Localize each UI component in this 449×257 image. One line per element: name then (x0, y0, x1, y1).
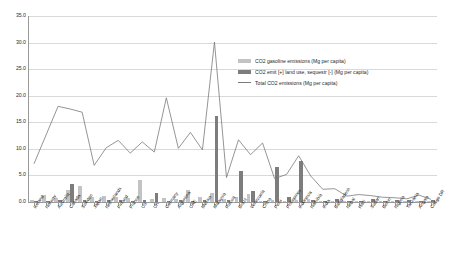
legend-item-total: Total CO2 emissions (Mg per capita) (238, 77, 438, 88)
y-axis-tick-label: 0.0 (2, 199, 26, 204)
legend-item-gasoline: CO2 gasoline emissions (Mg per capita) (238, 55, 438, 66)
legend-label-landuse: CO2 emit [+] land use, sequestr [-] (Mg … (255, 69, 368, 75)
legend-swatch-gasoline-icon (238, 59, 251, 63)
x-axis-label: UAE (189, 199, 198, 209)
co2-emissions-chart: 0.05.010.015.020.025.030.035.0 IcelandNo… (0, 0, 449, 257)
legend-label-total: Total CO2 emissions (Mg per capita) (255, 80, 337, 86)
y-axis-tick-label: 15.0 (2, 119, 26, 124)
chart-legend: CO2 gasoline emissions (Mg per capita) C… (238, 55, 438, 88)
legend-swatch-landuse-icon (238, 70, 251, 74)
y-axis-tick-label: 5.0 (2, 172, 26, 177)
y-axis-tick-label: 35.0 (2, 13, 26, 18)
y-axis-tick-label: 20.0 (2, 93, 26, 98)
total-emissions-line-layer (28, 16, 437, 202)
y-axis-tick-label: 25.0 (2, 66, 26, 71)
legend-swatch-total-line-icon (238, 82, 251, 83)
x-axis-label: US (141, 202, 148, 210)
legend-label-gasoline: CO2 gasoline emissions (Mg per capita) (255, 58, 346, 64)
y-axis-tick-label: 30.0 (2, 40, 26, 45)
legend-item-landuse: CO2 emit [+] land use, sequestr [-] (Mg … (238, 66, 438, 77)
y-axis-tick-labels: 0.05.010.015.020.025.030.035.0 (0, 0, 26, 203)
y-axis-tick-label: 10.0 (2, 146, 26, 151)
x-axis-label: UK (153, 202, 160, 210)
x-axis-labels: IcelandNorwayAustraliaCanadaSwedenJapanN… (28, 203, 437, 257)
